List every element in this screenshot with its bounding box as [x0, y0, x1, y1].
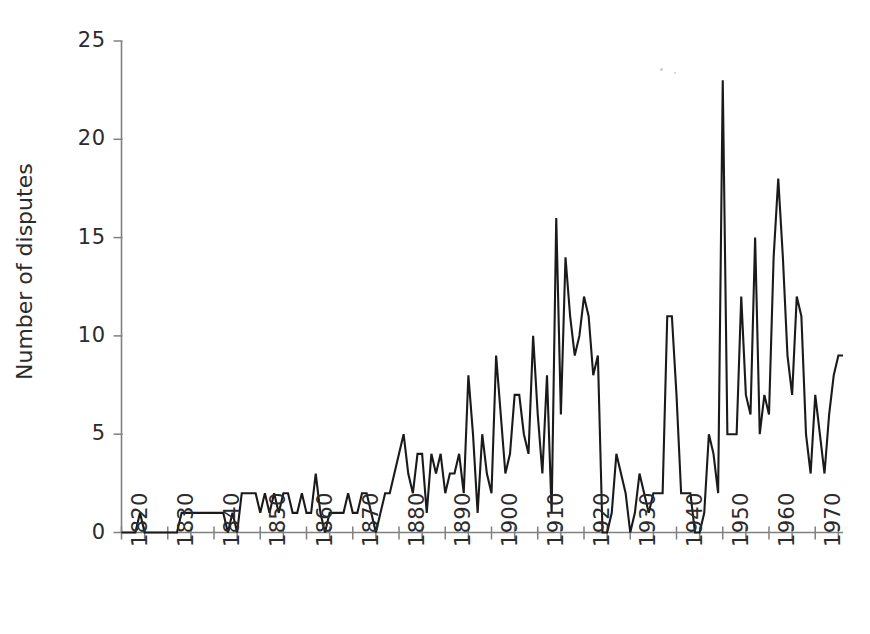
- x-tick-label: 1960: [777, 492, 798, 547]
- series-line-number-of-disputes: [122, 80, 844, 532]
- x-tick-label: 1950: [731, 492, 752, 547]
- x-tick-label: 1940: [685, 492, 706, 547]
- x-tick-label: 1910: [546, 492, 567, 547]
- scan-speck: [674, 72, 676, 74]
- y-tick-label: 5: [46, 423, 106, 444]
- x-tick-label: 1860: [315, 492, 336, 547]
- chart-figure: 0510152025 18201830184018501860187018801…: [0, 0, 870, 634]
- x-tick-label: 1970: [823, 492, 844, 547]
- y-tick-label: 20: [46, 128, 106, 149]
- x-tick-label: 1850: [268, 492, 289, 547]
- x-tick-label: 1870: [361, 492, 382, 547]
- y-tick-label: 10: [46, 325, 106, 346]
- y-tick-label: 25: [46, 30, 106, 51]
- y-axis-title: Number of disputes: [14, 163, 36, 380]
- x-tick-label: 1920: [592, 492, 613, 547]
- x-tick-label: 1840: [222, 492, 243, 547]
- y-tick-label: 15: [46, 227, 106, 248]
- y-tick-label: 0: [46, 522, 106, 543]
- scan-speck: [660, 68, 663, 71]
- x-tick-label: 1830: [176, 492, 197, 547]
- x-tick-label: 1930: [638, 492, 659, 547]
- x-tick-label: 1890: [453, 492, 474, 547]
- x-tick-label: 1820: [130, 492, 151, 547]
- x-tick-label: 1900: [500, 492, 521, 547]
- x-tick-label: 1880: [407, 492, 428, 547]
